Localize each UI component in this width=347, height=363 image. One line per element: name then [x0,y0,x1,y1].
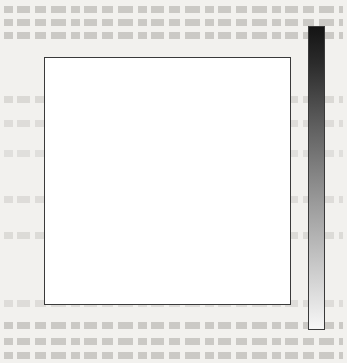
colorbar [308,26,325,330]
confusion-matrix-figure [0,0,347,363]
heatmap-grid [45,58,290,304]
